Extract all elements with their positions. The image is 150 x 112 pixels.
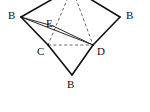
inner-edges-group xyxy=(21,17,93,45)
geometry-figure: B B B C D E xyxy=(0,0,150,112)
edge-c-b-bottom xyxy=(48,45,72,75)
vertex-label-c: C xyxy=(37,46,44,57)
vertex-label-d: D xyxy=(97,46,105,57)
vertex-label-b-bottom: B xyxy=(67,79,74,90)
hidden-edges-group xyxy=(48,0,93,45)
edge-d-b-bottom xyxy=(72,45,93,75)
vertex-label-b-right: B xyxy=(126,10,133,21)
edge-b-left-d xyxy=(21,17,93,45)
vertex-label-b-left: B xyxy=(8,10,15,21)
edge-b-right-d xyxy=(93,17,120,45)
vertex-label-e: E xyxy=(46,18,53,29)
edge-apex-b-left xyxy=(21,0,72,17)
outer-edges-group xyxy=(21,0,120,75)
